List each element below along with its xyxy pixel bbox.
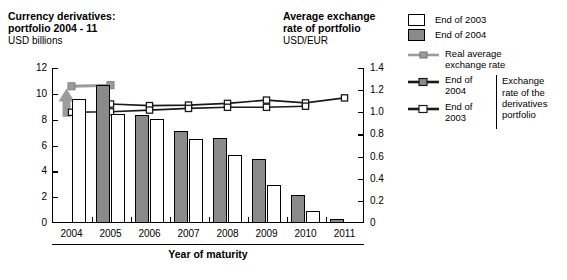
x-tick-label-2010: 2010 — [294, 228, 316, 239]
y-left-tick-4: 4 — [41, 166, 47, 176]
left-chart-title: Currency derivatives: portfolio 2004 - 1… — [8, 10, 115, 47]
x-tick-label-2006: 2006 — [138, 228, 160, 239]
x-tick-label-2007: 2007 — [177, 228, 199, 239]
white-square-swatch — [408, 14, 425, 26]
black-line-white-marker-icon — [408, 103, 439, 115]
marker-2007 — [185, 105, 191, 111]
bar-end-of-2003-2008 — [228, 155, 243, 223]
x-tick-label-2009: 2009 — [255, 228, 277, 239]
legend-label-line-2003: End of 2003 — [445, 102, 496, 124]
legend-label-bar-2003: End of 2003 — [435, 15, 486, 26]
y-right-tick-1.4: 1.4 — [370, 63, 384, 73]
left-title-main: Currency derivatives: portfolio 2004 - 1… — [8, 10, 115, 35]
bar-end-of-2004-2006 — [135, 115, 150, 224]
marker-2010 — [302, 103, 308, 109]
legend-item-bar-2004: End of 2004 — [408, 29, 564, 41]
legend-item-line-2003: End of 2003 — [408, 102, 496, 124]
x-axis-title: Year of maturity — [52, 248, 364, 260]
right-title-main: Average exchange rate of portfolio — [283, 10, 375, 35]
gray-line-marker-icon — [408, 49, 439, 61]
right-title-sub: USD/EUR — [283, 35, 375, 47]
y-left-tick-0: 0 — [41, 218, 47, 228]
bar-end-of-2003-2005 — [111, 114, 126, 223]
legend-item-bar-2003: End of 2003 — [408, 14, 564, 26]
bar-end-of-2003-2006 — [150, 119, 165, 223]
legend-label-line-2004: End of 2004 — [445, 75, 496, 97]
y-right-tick-0.6: 0.6 — [370, 152, 384, 162]
bar-end-of-2003-2010 — [306, 211, 321, 223]
bar-end-of-2004-2010 — [291, 195, 306, 223]
plot-area — [52, 68, 364, 223]
marker-2009 — [263, 97, 269, 103]
y-right-tick-1.2: 1.2 — [370, 85, 384, 95]
right-chart-title: Average exchange rate of portfolio USD/E… — [283, 10, 375, 47]
y-right-tick-1.0: 1.0 — [370, 107, 384, 117]
y-left-tick-2: 2 — [41, 192, 47, 202]
marker-2006 — [146, 107, 152, 113]
legend-brace-label: Exchange rate of the derivatives portfol… — [496, 75, 547, 129]
x-axis-tick-labels: 20042005200620072008200920102011 — [52, 228, 364, 242]
marker-2008 — [224, 104, 230, 110]
y-right-tick-0: 0 — [370, 218, 376, 228]
bar-end-of-2004-2011 — [330, 219, 345, 223]
black-line-gray-marker-icon — [408, 76, 439, 88]
left-title-sub: USD billions — [8, 35, 115, 47]
chart-legend: End of 2003 End of 2004 Real average exc… — [408, 14, 564, 129]
y-axis-left: 024681012 — [20, 68, 47, 223]
legend-label-real-average-rate: Real average exchange rate — [445, 48, 505, 70]
bar-end-of-2004-2009 — [252, 159, 267, 223]
marker-2011 — [341, 95, 347, 101]
y-right-tick-0.2: 0.2 — [370, 196, 384, 206]
bar-end-of-2003-2007 — [189, 139, 204, 223]
bar-end-of-2004-2007 — [174, 131, 189, 223]
legend-group-derivatives-portfolio: End of 2004 End of 2003 Exchange rate of… — [408, 75, 564, 129]
marker-2004 — [68, 83, 75, 90]
x-axis-rule — [52, 244, 364, 245]
x-tick-label-2005: 2005 — [99, 228, 121, 239]
bar-end-of-2004-2008 — [213, 138, 228, 223]
x-tick-label-2004: 2004 — [60, 228, 82, 239]
y-right-tick-0.8: 0.8 — [370, 129, 384, 139]
gray-square-swatch — [408, 29, 425, 41]
marker-2009 — [263, 104, 269, 110]
legend-label-bar-2004: End of 2004 — [435, 30, 486, 41]
bar-end-of-2004-2005 — [96, 85, 111, 223]
bar-end-of-2003-2009 — [267, 185, 282, 223]
y-right-tick-0.4: 0.4 — [370, 174, 384, 184]
bar-end-of-2003-2004 — [72, 99, 87, 223]
x-tick-label-2008: 2008 — [216, 228, 238, 239]
y-left-tick-10: 10 — [36, 89, 47, 99]
legend-item-line-2004: End of 2004 — [408, 75, 496, 97]
y-left-tick-6: 6 — [41, 141, 47, 151]
legend-item-real-average-rate: Real average exchange rate — [408, 48, 564, 70]
y-left-tick-8: 8 — [41, 115, 47, 125]
y-axis-right: 00.20.40.60.81.01.21.4 — [370, 68, 400, 223]
x-tick-label-2011: 2011 — [334, 228, 356, 239]
y-left-tick-12: 12 — [36, 63, 47, 73]
